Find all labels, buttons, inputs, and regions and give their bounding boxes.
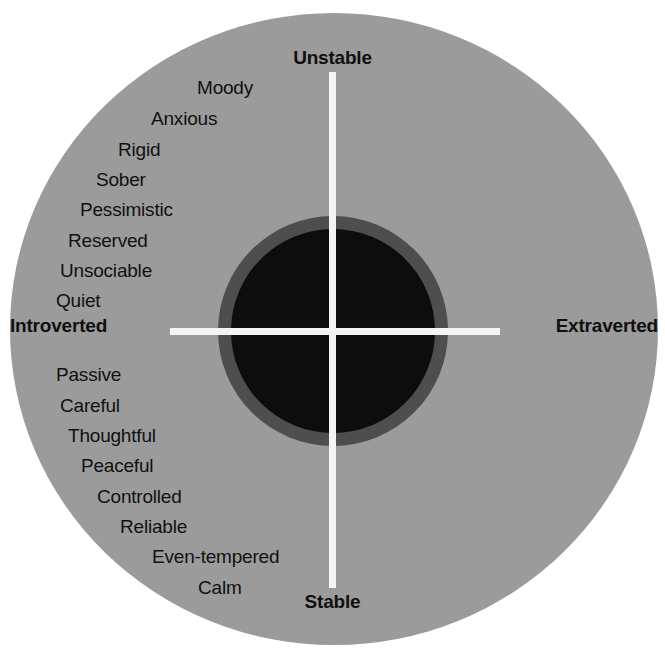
trait-word: Moody [197, 78, 253, 97]
axis-label-extraverted: Extraverted [556, 315, 658, 337]
trait-word: Pessimistic [80, 200, 173, 219]
trait-word: Thoughtful [68, 426, 156, 445]
trait-word: Quiet [56, 291, 100, 310]
trait-word: Reserved [68, 231, 148, 250]
trait-word: Careful [60, 396, 120, 415]
axis-label-stable: Stable [0, 591, 665, 613]
trait-word: Calm [198, 578, 242, 597]
trait-word: Rigid [118, 140, 160, 159]
trait-word: Peaceful [81, 456, 153, 475]
trait-word: Anxious [151, 109, 217, 128]
trait-word: Passive [56, 365, 121, 384]
trait-word: Sober [96, 170, 146, 189]
trait-word: Controlled [97, 487, 182, 506]
horizontal-axis-line [170, 328, 500, 335]
eysenck-personality-circle-diagram: Unstable Stable Introverted Extraverted … [0, 0, 665, 654]
trait-word: Unsociable [60, 261, 152, 280]
axis-label-unstable: Unstable [0, 47, 665, 69]
trait-word: Even-tempered [152, 547, 279, 566]
trait-word: Reliable [120, 517, 187, 536]
axis-label-introverted: Introverted [10, 315, 107, 337]
